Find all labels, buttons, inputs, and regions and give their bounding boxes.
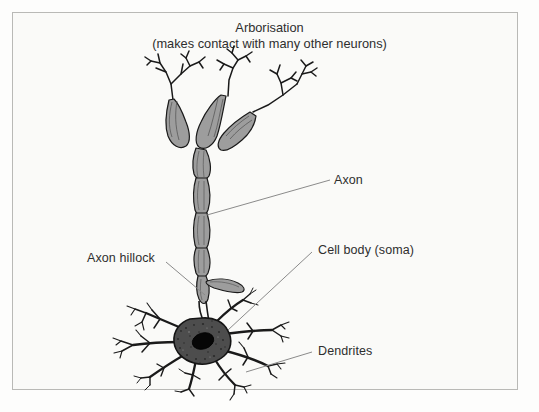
leader-axon — [207, 180, 330, 215]
cell-body-soma — [174, 318, 231, 364]
axon-hillock — [197, 276, 244, 322]
neuron-illustration — [0, 0, 539, 412]
figure-canvas: Arborisation (makes contact with many ot… — [0, 0, 539, 412]
label-axon: Axon — [334, 173, 363, 188]
leader-dendrites — [246, 352, 312, 372]
axon-myelin-segments — [193, 148, 210, 278]
label-cell-body: Cell body (soma) — [318, 243, 414, 258]
label-axon-hillock: Axon hillock — [87, 251, 155, 266]
axon-arbor-trunks — [166, 95, 256, 150]
label-dendrites: Dendrites — [318, 344, 372, 359]
